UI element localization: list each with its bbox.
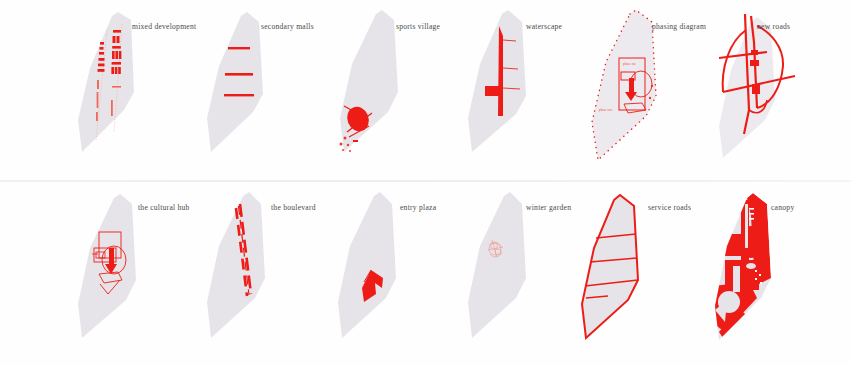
panel-caption: canopy (771, 204, 794, 212)
panel-caption: secondary malls (261, 23, 314, 31)
phase-two-label: phase two (599, 108, 613, 112)
site-polygon (78, 12, 134, 152)
panel-waterscape[interactable]: waterscape (444, 0, 586, 180)
panel-service-roads[interactable]: service roads (572, 182, 714, 365)
panel-caption: new roads (757, 23, 790, 31)
panel-caption: the cultural hub (138, 204, 190, 212)
site-polygon (468, 192, 526, 338)
panel-caption: sports village (396, 23, 440, 31)
panel-sports-village[interactable]: sports village (314, 0, 456, 180)
panel-mixed-development[interactable]: mixed development (52, 0, 194, 180)
top-row: mixed development secondary malls (0, 0, 851, 180)
panel-caption: service roads (648, 204, 691, 212)
panel-caption: entry plaza (400, 204, 436, 212)
phase-one-label: phase one (623, 62, 637, 66)
site-polygon (207, 12, 263, 152)
panel-caption: phasing diagram (652, 23, 706, 31)
canopy-masses (711, 193, 771, 344)
panel-caption: waterscape (526, 23, 562, 31)
bottom-row: the cultural hub the boulevard (0, 182, 851, 365)
panel-caption: the boulevard (271, 204, 316, 212)
site-polygon (592, 10, 656, 160)
panel-secondary-malls[interactable]: secondary malls (183, 0, 325, 180)
panel-canvas (572, 182, 714, 365)
panel-canvas (444, 0, 586, 180)
panel-canopy[interactable]: canopy (705, 182, 847, 365)
panel-entry-plaza[interactable]: entry plaza (314, 182, 456, 365)
panel-the-boulevard[interactable]: the boulevard (183, 182, 325, 365)
panel-the-cultural-hub[interactable]: the cultural hub (52, 182, 194, 365)
diagram-board: mixed development secondary malls (0, 0, 851, 365)
site-polygon (468, 10, 526, 152)
panel-new-roads[interactable]: new roads (705, 0, 847, 180)
site-polygon (338, 192, 396, 338)
panel-caption: winter garden (526, 204, 571, 212)
panel-winter-garden[interactable]: winter garden (444, 182, 586, 365)
panel-phasing-diagram[interactable]: phase one phase two phasing diagram (572, 0, 714, 180)
